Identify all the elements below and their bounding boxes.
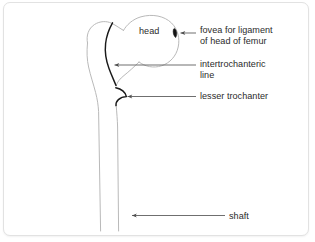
label-lesser-trochanter: lesser trochanter [200, 91, 268, 102]
label-fovea-for-ligament: fovea for ligament of head of femur [200, 25, 273, 47]
label-head-text: head [139, 26, 159, 36]
femur-outline-group [87, 15, 179, 231]
label-intertrochanteric-line2: line [200, 70, 266, 81]
femoral-head-outline [124, 15, 179, 67]
femoral-neck-outline [116, 62, 139, 86]
label-lesser-trochanter-text: lesser trochanter [200, 91, 268, 101]
intertrochanteric-line-stroke [105, 23, 116, 86]
lesser-trochanter-stroke [116, 88, 127, 106]
label-shaft: shaft [229, 211, 249, 222]
greater-trochanter-outline [87, 22, 123, 43]
label-intertrochanteric-line1: intertrochanteric [200, 59, 266, 70]
label-head: head [139, 26, 159, 37]
label-intertrochanteric-line: intertrochanteric line [200, 59, 266, 81]
label-fovea-line2: of head of femur [200, 36, 273, 47]
label-shaft-text: shaft [229, 211, 249, 221]
lateral-shaft-outline [87, 43, 101, 231]
medial-shaft-outline [116, 106, 118, 232]
figure-panel: head fovea for ligament of head of femur… [3, 2, 309, 236]
label-fovea-line1: fovea for ligament [200, 25, 273, 36]
